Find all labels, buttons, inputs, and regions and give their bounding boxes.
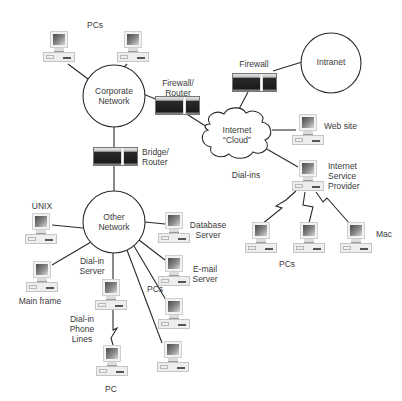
link-dialin-pc: [111, 310, 117, 345]
dial-in-server-line1: Dial-in: [79, 256, 104, 266]
corporate-pcs-label: PCs: [87, 20, 103, 30]
unix-computer-icon: [25, 213, 57, 246]
unix-label: UNIX: [32, 201, 52, 211]
intranet-label: Intranet: [317, 57, 346, 67]
link-firewall-intranet: [273, 62, 302, 71]
computer-icon: [245, 222, 277, 255]
bridge-router-line1: Bridge/: [142, 147, 169, 157]
other-network-line2: Network: [98, 222, 129, 232]
other-network-label: Other Network: [98, 212, 129, 232]
link-corp-pc1: [68, 64, 88, 79]
pc-label: PC: [105, 384, 117, 394]
firewall-router-line1: Firewall/: [162, 78, 194, 88]
computer-icon: [158, 298, 190, 331]
dial-in-server-computer-icon: [95, 279, 127, 312]
firewall-label: Firewall: [239, 59, 268, 69]
bridge-router-line2: Router: [142, 157, 169, 167]
dial-ins-label: Dial-ins: [232, 170, 260, 180]
corporate-network-line1: Corporate: [95, 86, 133, 96]
corporate-network-line2: Network: [95, 96, 133, 106]
firewall-router-icon: [155, 96, 200, 115]
database-server-line2: Server: [190, 230, 226, 240]
email-server-line1: E-mail: [192, 264, 217, 274]
main-frame-label: Main frame: [19, 296, 62, 306]
pc-computer-icon: [96, 345, 128, 378]
corporate-network-label: Corporate Network: [95, 86, 133, 106]
mac-computer-icon: [340, 222, 372, 255]
computer-icon: [293, 222, 325, 255]
computer-icon: [43, 31, 75, 64]
link-isp-mac: [316, 192, 350, 224]
firewall-icon: [232, 73, 277, 92]
isp-line3: Provider: [328, 181, 360, 191]
database-server-computer-icon: [158, 212, 190, 245]
computer-icon: [157, 341, 189, 374]
computer-icon: [117, 31, 149, 64]
other-pcs-label: PCs: [147, 284, 163, 294]
isp-pcs-label: PCs: [279, 259, 295, 269]
phone-lines-line3: Lines: [70, 334, 95, 344]
dial-in-phone-lines-label: Dial-in Phone Lines: [70, 314, 95, 344]
firewall-router-line2: Router: [162, 88, 194, 98]
isp-label: Internet Service Provider: [328, 161, 360, 191]
email-server-label: E-mail Server: [192, 264, 217, 284]
link-isp-pc1: [262, 191, 296, 224]
bridge-router-label: Bridge/ Router: [142, 147, 169, 167]
link-fwrouter-cloud: [185, 113, 207, 127]
bridge-router-icon: [93, 147, 138, 166]
internet-cloud-line2: “Cloud”: [223, 135, 252, 145]
firewall-router-label: Firewall/ Router: [162, 78, 194, 98]
database-server-label: Database Server: [190, 220, 226, 240]
web-site-label: Web site: [324, 121, 357, 131]
mac-label: Mac: [376, 229, 392, 239]
network-diagram: Corporate Network Other Network Intranet…: [0, 0, 402, 401]
internet-cloud-line1: Internet: [223, 125, 252, 135]
mainframe-computer-icon: [26, 261, 58, 294]
database-server-line1: Database: [190, 220, 226, 230]
link-isp-pc2: [303, 192, 313, 223]
dial-in-server-label: Dial-in Server: [79, 256, 104, 276]
isp-computer-icon: [292, 160, 324, 193]
isp-line2: Service: [328, 171, 360, 181]
email-server-line2: Server: [192, 274, 217, 284]
web-site-computer-icon: [292, 114, 324, 147]
isp-line1: Internet: [328, 161, 360, 171]
internet-cloud-label: Internet “Cloud”: [223, 125, 252, 145]
other-network-line1: Other: [98, 212, 129, 222]
dial-in-server-line2: Server: [79, 266, 104, 276]
phone-lines-line2: Phone: [70, 324, 95, 334]
phone-lines-line1: Dial-in: [70, 314, 95, 324]
